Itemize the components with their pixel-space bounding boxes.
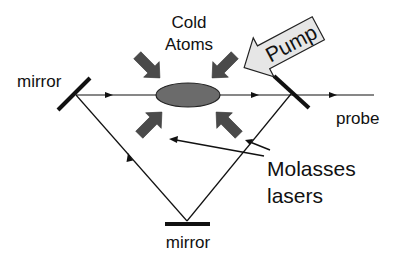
molasses-label-line1: Molasses bbox=[267, 157, 356, 180]
arrowhead-top-right-icon bbox=[251, 92, 259, 98]
molasses-arrow-upper-left-icon bbox=[129, 47, 167, 85]
mirror-left-label: mirror bbox=[17, 72, 62, 91]
arrowhead-probe-icon bbox=[329, 92, 337, 98]
probe-label: probe bbox=[336, 109, 379, 128]
molasses-arrow-lower-right-icon bbox=[208, 104, 246, 142]
mirror-bottom-label: mirror bbox=[166, 233, 211, 252]
beam-left-diagonal bbox=[76, 95, 187, 221]
cavity-diagram: Pump Cold Atoms mirror probe mirror Mola… bbox=[0, 0, 397, 264]
molasses-arrow-lower-left-icon bbox=[131, 104, 169, 142]
arrowhead-top-left-icon bbox=[105, 92, 113, 98]
cold-atoms-label-line2: Atoms bbox=[165, 35, 213, 54]
arrowhead-left-diagonal-icon bbox=[127, 153, 134, 162]
mirror-right bbox=[274, 76, 309, 108]
pump-label: Pump bbox=[262, 20, 321, 66]
pump-arrow-icon: Pump bbox=[234, 9, 329, 87]
atom-cloud bbox=[156, 83, 220, 107]
molasses-label-line2: lasers bbox=[267, 184, 323, 207]
cold-atoms-label-line1: Cold bbox=[172, 13, 207, 32]
pointer-arrowhead-left-icon bbox=[169, 136, 178, 143]
pointer-to-right-beam bbox=[250, 142, 270, 150]
